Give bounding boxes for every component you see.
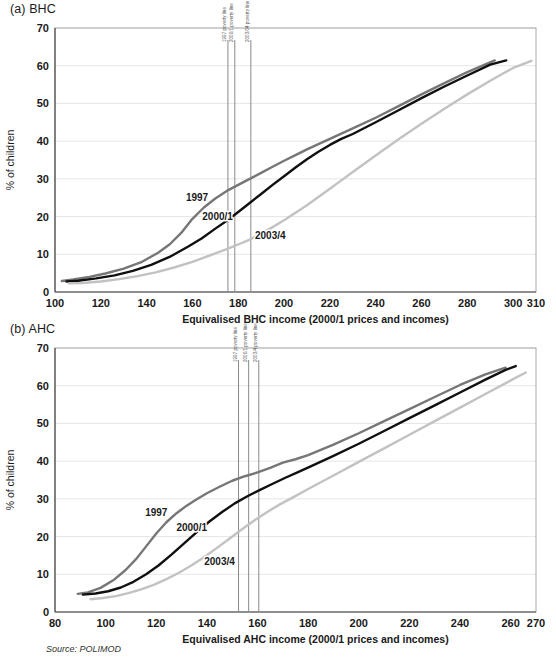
series-line-2000-1	[66, 60, 506, 281]
poverty-line-label: 1997 poverty line	[233, 327, 238, 362]
series-label-2003-4: 2003/4	[204, 556, 235, 567]
x-tick-label: 180	[229, 297, 247, 309]
x-tick-label: 310	[527, 297, 545, 309]
y-tick-label: 10	[37, 248, 49, 260]
panel-ahc: (b) AHC 01020304050607080100120140160180…	[0, 320, 556, 663]
poverty-line-label: 2000/1 poverty line	[229, 3, 234, 42]
x-tick-label: 200	[350, 617, 368, 629]
x-tick-label: 270	[527, 617, 545, 629]
poverty-line-label: 2000/1 poverty line	[243, 323, 248, 362]
x-tick-label: 180	[299, 617, 317, 629]
poverty-line-label: 1997 poverty line	[222, 7, 227, 42]
x-axis-title: Equivalised AHC income (2000/1 prices an…	[182, 633, 448, 645]
y-axis-title: % of children	[4, 129, 16, 190]
x-tick-label: 220	[400, 617, 418, 629]
x-tick-label: 240	[451, 617, 469, 629]
series-label-1997: 1997	[145, 507, 168, 518]
chart-bhc: 0102030405060701001201401601802002202402…	[0, 0, 556, 330]
x-tick-label: 260	[412, 297, 430, 309]
poverty-line-label: 2003/4 poverty line	[253, 323, 258, 362]
x-tick-label: 260	[502, 617, 520, 629]
x-tick-label: 140	[137, 297, 155, 309]
y-tick-label: 70	[37, 22, 49, 34]
series-line-2003-4	[69, 61, 532, 284]
chart-ahc: 0102030405060708010012014016018020022024…	[0, 320, 556, 663]
x-tick-label: 120	[92, 297, 110, 309]
y-tick-label: 40	[37, 455, 49, 467]
y-tick-label: 20	[37, 211, 49, 223]
x-tick-label: 160	[248, 617, 266, 629]
x-tick-label: 100	[96, 617, 114, 629]
series-label-2000-1: 2000/1	[176, 522, 207, 533]
x-tick-label: 160	[183, 297, 201, 309]
panel-bhc: (a) BHC 01020304050607010012014016018020…	[0, 0, 556, 330]
y-tick-label: 40	[37, 135, 49, 147]
y-tick-label: 70	[37, 342, 49, 354]
source-note: Source: POLIMOD	[46, 644, 121, 654]
y-tick-label: 10	[37, 568, 49, 580]
x-tick-label: 280	[458, 297, 476, 309]
poverty-line-label: 2003/04 poverty line	[245, 0, 250, 42]
series-label-1997: 1997	[186, 192, 209, 203]
x-tick-label: 120	[147, 617, 165, 629]
y-axis-title: % of children	[4, 449, 16, 510]
x-tick-label: 240	[366, 297, 384, 309]
series-label-2003-4: 2003/4	[255, 230, 286, 241]
y-tick-label: 30	[37, 493, 49, 505]
y-tick-label: 60	[37, 380, 49, 392]
x-tick-label: 220	[321, 297, 339, 309]
y-tick-label: 50	[37, 417, 49, 429]
series-line-2003-4	[90, 373, 525, 600]
series-label-2000-1: 2000/1	[202, 211, 233, 222]
series-line-2000-1	[83, 366, 516, 595]
y-tick-label: 30	[37, 173, 49, 185]
x-tick-label: 80	[49, 617, 61, 629]
y-tick-label: 60	[37, 60, 49, 72]
x-tick-label: 300	[504, 297, 522, 309]
x-tick-label: 200	[275, 297, 293, 309]
y-tick-label: 50	[37, 97, 49, 109]
x-tick-label: 140	[198, 617, 216, 629]
y-tick-label: 20	[37, 531, 49, 543]
x-tick-label: 100	[46, 297, 64, 309]
